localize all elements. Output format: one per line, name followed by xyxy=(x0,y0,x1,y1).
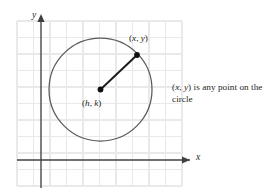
x-axis-arrowhead xyxy=(182,156,190,163)
axis-lines xyxy=(17,16,190,188)
annotation-note: (x, y) is any point on the circle xyxy=(172,82,266,105)
center-hk-label: (h, k) xyxy=(82,98,101,108)
radius-segment xyxy=(101,55,138,90)
paren-close: ) xyxy=(98,98,101,108)
y-axis-label: y xyxy=(32,10,36,20)
center-point-marker xyxy=(98,87,104,93)
circle-point-marker xyxy=(134,52,140,58)
point-xy-label: (x, y) xyxy=(129,33,148,43)
y-axis-arrowhead xyxy=(37,14,44,22)
circle-diagram: y x (x, y) (h, k) (x, y) is any point on… xyxy=(0,0,266,195)
x-axis-label: x xyxy=(196,152,200,162)
paren-close: ) xyxy=(145,33,148,43)
